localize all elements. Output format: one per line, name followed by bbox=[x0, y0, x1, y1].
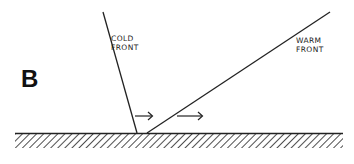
warm-front-label: WARM FRONT bbox=[296, 36, 324, 54]
diagram-canvas bbox=[0, 0, 354, 164]
weather-fronts-diagram: B COLD FRONT WARM FRONT bbox=[0, 0, 354, 164]
arrow-right-icon bbox=[177, 112, 203, 120]
cold-front-line bbox=[103, 12, 137, 133]
cold-front-label-line1: COLD bbox=[111, 34, 139, 43]
panel-letter: B bbox=[21, 67, 38, 91]
ground-hatching bbox=[15, 134, 343, 148]
warm-front-label-line1: WARM bbox=[296, 36, 324, 45]
warm-front-label-line2: FRONT bbox=[296, 45, 324, 54]
cold-front-label: COLD FRONT bbox=[111, 34, 139, 52]
warm-front-line bbox=[147, 12, 330, 133]
cold-front-label-line2: FRONT bbox=[111, 43, 139, 52]
arrow-right-icon bbox=[135, 112, 153, 120]
